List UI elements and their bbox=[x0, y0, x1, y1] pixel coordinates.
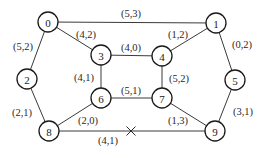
node-6: 6 bbox=[91, 88, 111, 108]
edge-label-4-7: (5,2) bbox=[169, 73, 190, 85]
edge-label-3-6: (4,1) bbox=[74, 72, 95, 84]
node-4: 4 bbox=[152, 46, 172, 66]
edge-label-6-7: (5,1) bbox=[121, 85, 142, 97]
node-label: 1 bbox=[213, 18, 219, 30]
edges-layer bbox=[27, 22, 235, 136]
node-3: 3 bbox=[91, 45, 111, 65]
node-label: 5 bbox=[232, 75, 238, 87]
edge-label-2-8: (2,1) bbox=[12, 107, 33, 119]
edge-label-0-3: (4,2) bbox=[76, 29, 97, 41]
node-8: 8 bbox=[39, 121, 59, 141]
node-0: 0 bbox=[38, 12, 58, 32]
node-9: 9 bbox=[205, 121, 225, 141]
node-label: 3 bbox=[98, 50, 104, 62]
edge-label-8-9: (4,1) bbox=[98, 135, 119, 147]
node-label: 9 bbox=[212, 126, 218, 138]
network-graph: (5,3)(5,2)(4,2)(1,2)(0,2)(4,0)(4,1)(5,2)… bbox=[0, 0, 264, 158]
edge-label-0-1: (5,3) bbox=[121, 8, 142, 20]
node-label: 4 bbox=[159, 51, 165, 63]
node-7: 7 bbox=[152, 88, 172, 108]
node-label: 6 bbox=[98, 93, 104, 105]
node-label: 8 bbox=[46, 126, 52, 138]
nodes-layer: 0123456789 bbox=[17, 12, 245, 141]
edge-label-5-9: (3,1) bbox=[233, 106, 254, 118]
node-label: 7 bbox=[159, 93, 165, 105]
edge-label-1-5: (0,2) bbox=[232, 39, 253, 51]
edge-label-6-8: (2,0) bbox=[78, 115, 99, 127]
edge-label-0-2: (5,2) bbox=[13, 41, 34, 53]
node-label: 2 bbox=[24, 74, 30, 86]
node-label: 0 bbox=[45, 17, 51, 29]
node-5: 5 bbox=[225, 70, 245, 90]
node-1: 1 bbox=[206, 13, 226, 33]
node-2: 2 bbox=[17, 69, 37, 89]
edge-label-3-4: (4,0) bbox=[121, 42, 142, 54]
edge-label-7-9: (1,3) bbox=[168, 115, 189, 127]
edge-label-1-4: (1,2) bbox=[168, 29, 189, 41]
edge-0-1 bbox=[48, 22, 216, 23]
